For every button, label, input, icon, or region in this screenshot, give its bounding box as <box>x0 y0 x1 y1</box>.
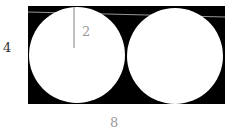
width-label: 8 <box>110 116 118 129</box>
diagram-canvas <box>0 0 233 132</box>
height-label: 4 <box>3 41 11 54</box>
left-circle <box>29 7 125 103</box>
radius-label: 2 <box>82 25 90 38</box>
right-circle <box>127 8 223 104</box>
